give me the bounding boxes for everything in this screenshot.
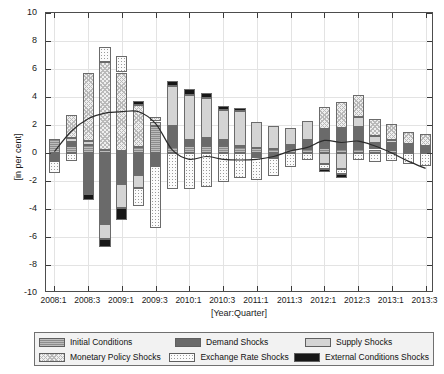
legend-item-exchange-rate-shocks[interactable]: Exchange Rate Shocks <box>169 353 294 362</box>
x-axis-tick <box>324 13 325 18</box>
plot-area <box>45 12 433 292</box>
y-axis-tick-label: -6 <box>29 231 37 241</box>
y-axis-tick <box>427 69 432 70</box>
legend-label-demand-shocks: Demand Shocks <box>206 338 268 347</box>
x-axis-tick <box>324 286 325 291</box>
y-axis-tick-label: 0 <box>32 147 37 157</box>
legend-swatch-external-conditions-shocks <box>294 353 320 362</box>
y-axis-tick <box>46 181 51 182</box>
x-axis-tick-label: 2013:3 <box>412 295 438 305</box>
x-axis-tick <box>426 286 427 291</box>
x-axis-tick <box>156 13 157 18</box>
x-axis-tick <box>257 286 258 291</box>
x-axis-tick-label: 2010:3 <box>209 295 235 305</box>
y-axis-tick <box>46 97 51 98</box>
x-axis-tick <box>88 286 89 291</box>
legend-swatch-exchange-rate-shocks <box>169 353 195 362</box>
x-axis-tick <box>257 13 258 18</box>
x-axis-tick-label: 2011:1 <box>243 295 268 305</box>
y-axis-tick <box>427 265 432 266</box>
y-axis-tick <box>427 237 432 238</box>
y-axis-tick <box>46 237 51 238</box>
y-axis-tick-label: -4 <box>29 203 37 213</box>
y-axis-tick-label: 6 <box>32 63 37 73</box>
x-axis-tick <box>392 13 393 18</box>
legend-item-supply-shocks[interactable]: Supply Shocks <box>305 338 392 347</box>
x-axis-tick <box>291 286 292 291</box>
y-axis-tick <box>427 209 432 210</box>
legend-label-supply-shocks: Supply Shocks <box>336 338 392 347</box>
y-axis-tick <box>46 209 51 210</box>
x-axis-tick <box>88 13 89 18</box>
x-axis-tick-label: 2009:1 <box>108 295 134 305</box>
y-axis-tick <box>46 13 51 14</box>
x-axis-tick <box>358 286 359 291</box>
legend-item-demand-shocks[interactable]: Demand Shocks <box>175 338 305 347</box>
legend-label-monetary-policy-shocks: Monetary Policy Shocks <box>70 353 161 362</box>
y-axis-tick <box>46 265 51 266</box>
x-axis-tick <box>392 286 393 291</box>
legend-label-exchange-rate-shocks: Exchange Rate Shocks <box>200 353 288 362</box>
y-axis-tick <box>46 153 51 154</box>
line-series-layer <box>46 13 433 292</box>
legend-swatch-initial-conditions <box>39 338 65 347</box>
y-axis-tick-label: 4 <box>32 91 37 101</box>
x-axis-title: [Year:Quarter] <box>45 308 433 318</box>
legend-item-initial-conditions[interactable]: Initial Conditions <box>39 338 175 347</box>
y-axis-tick-labels: -10-8-6-4-20246810 <box>0 12 41 292</box>
x-axis-tick <box>189 286 190 291</box>
x-axis-tick-label: 2009:3 <box>142 295 168 305</box>
total-line-series <box>54 111 425 169</box>
y-axis-tick-label: 2 <box>32 119 37 129</box>
x-axis-tick-label: 2011:3 <box>277 295 302 305</box>
x-axis-tick <box>122 13 123 18</box>
y-axis-tick <box>427 153 432 154</box>
x-axis-tick-label: 2010:1 <box>175 295 201 305</box>
x-axis-tick <box>54 13 55 18</box>
y-axis-tick <box>427 41 432 42</box>
x-axis-tick <box>156 286 157 291</box>
legend-row-1: Initial Conditions Demand Shocks Supply … <box>39 335 429 350</box>
x-axis-tick <box>358 13 359 18</box>
legend-item-external-conditions-shocks[interactable]: External Conditions Shocks <box>294 353 429 362</box>
y-axis-tick <box>427 97 432 98</box>
legend-swatch-monetary-policy-shocks <box>39 353 65 362</box>
x-axis-tick-label: 2012:1 <box>310 295 336 305</box>
legend-swatch-supply-shocks <box>305 338 331 347</box>
x-axis-tick <box>189 13 190 18</box>
legend-label-initial-conditions: Initial Conditions <box>70 338 132 347</box>
legend-swatch-demand-shocks <box>175 338 201 347</box>
legend-label-external-conditions-shocks: External Conditions Shocks <box>325 353 429 362</box>
y-axis-tick <box>46 69 51 70</box>
x-axis-tick <box>223 286 224 291</box>
y-axis-tick-label: -2 <box>29 175 37 185</box>
x-axis-tick-label: 2008:3 <box>74 295 100 305</box>
legend-item-monetary-policy-shocks[interactable]: Monetary Policy Shocks <box>39 353 169 362</box>
chart-root: [in per cent] -10-8-6-4-20246810 2008:12… <box>0 0 444 374</box>
y-axis-tick-label: -10 <box>24 287 37 297</box>
x-axis-tick-label: 2012:3 <box>344 295 370 305</box>
x-axis-tick-label: 2013:1 <box>378 295 404 305</box>
y-axis-tick <box>46 41 51 42</box>
y-axis-tick-label: 8 <box>32 35 37 45</box>
x-axis-tick <box>426 13 427 18</box>
y-axis-tick-label: 10 <box>27 7 37 17</box>
x-axis-tick <box>54 286 55 291</box>
x-axis-tick-label: 2008:1 <box>40 295 66 305</box>
x-axis-tick <box>291 13 292 18</box>
x-axis-tick <box>122 286 123 291</box>
y-axis-tick <box>427 13 432 14</box>
x-axis-tick <box>223 13 224 18</box>
legend-row-2: Monetary Policy Shocks Exchange Rate Sho… <box>39 350 429 365</box>
y-axis-tick <box>46 125 51 126</box>
y-axis-tick <box>427 181 432 182</box>
y-axis-tick <box>427 125 432 126</box>
y-axis-tick-label: -8 <box>29 259 37 269</box>
legend: Initial Conditions Demand Shocks Supply … <box>34 332 434 366</box>
